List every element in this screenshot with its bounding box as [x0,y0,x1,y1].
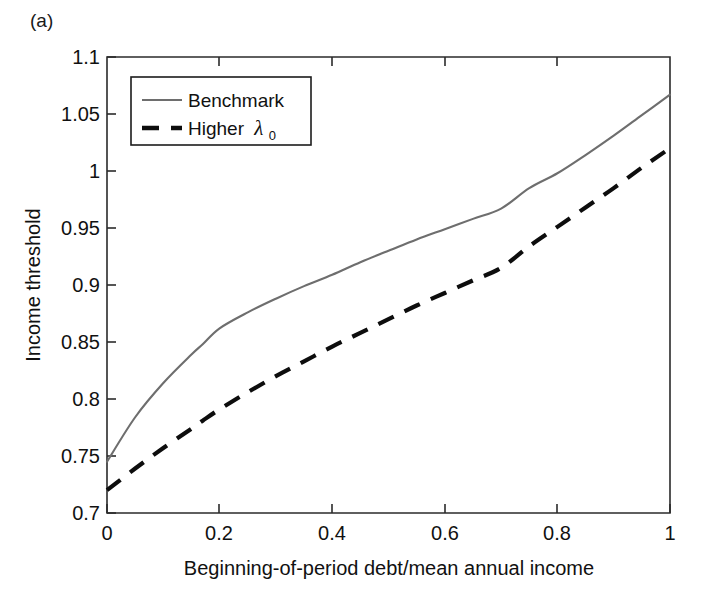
y-tick-label: 1.1 [72,46,100,68]
series-line-higher [107,148,670,490]
x-axis-title: Beginning-of-period debt/mean annual inc… [184,557,594,579]
legend-label-higher-text: Higher [188,118,245,139]
x-tick-label: 0.4 [318,522,346,544]
line-chart: 0.7 0.75 0.8 0.85 0.9 0.95 1 1.05 1.1 0 [0,0,706,609]
y-tick-label: 1.05 [61,103,100,125]
legend-label-higher-subscript: 0 [269,128,276,143]
y-tick-label: 0.95 [61,217,100,239]
series-line-benchmark [107,95,670,462]
x-tick-labels: 0 0.2 0.4 0.6 0.8 1 [101,522,675,544]
y-tick-labels: 0.7 0.75 0.8 0.85 0.9 0.95 1 1.05 1.1 [61,46,100,524]
figure-panel-a: (a) 0.7 0.75 0.8 0.85 0.9 0.95 1 1.05 1.… [0,0,706,609]
x-tick-label: 0 [101,522,112,544]
legend-label-higher: Higher λ 0 [188,116,276,143]
y-tick-label: 0.7 [72,502,100,524]
y-tick-label: 0.9 [72,274,100,296]
legend: Benchmark Higher λ 0 [131,77,311,145]
x-tick-label: 0.2 [205,522,233,544]
x-tick-label: 0.8 [543,522,571,544]
legend-label-higher-symbol: λ [253,116,263,140]
x-tick-label: 1 [664,522,675,544]
y-tick-label: 0.8 [72,388,100,410]
y-tick-marks [107,57,116,513]
legend-label-benchmark: Benchmark [188,90,285,111]
y-axis-title: Income threshold [22,208,44,361]
y-tick-label: 0.75 [61,445,100,467]
y-tick-label: 0.85 [61,331,100,353]
x-tick-label: 0.6 [431,522,459,544]
y-tick-label: 1 [89,160,100,182]
